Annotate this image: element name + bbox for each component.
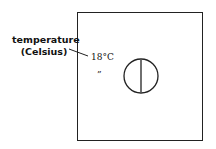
diagram-graphics (0, 0, 216, 149)
gauge-icon (124, 59, 158, 93)
callout-leader-line (69, 49, 88, 56)
